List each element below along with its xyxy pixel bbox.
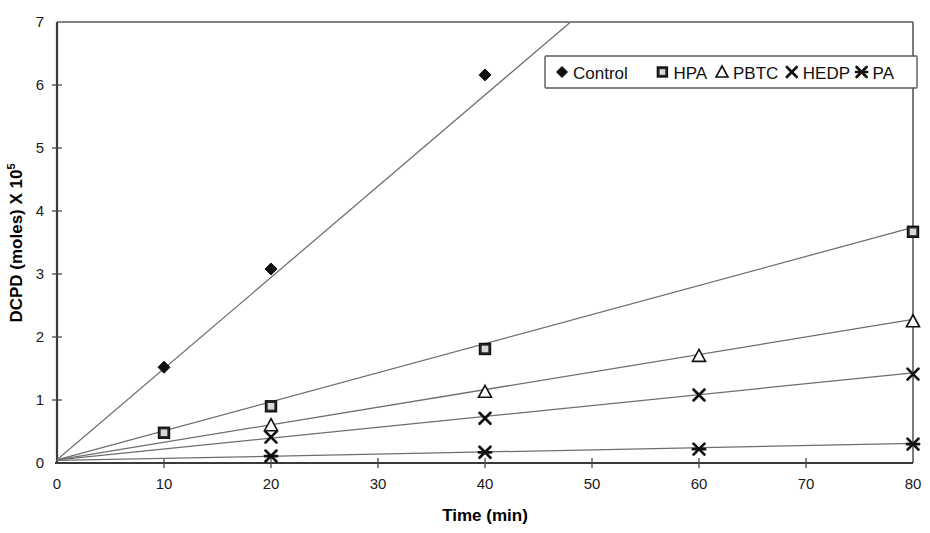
datapoint-hpa (266, 401, 277, 412)
x-tick-label: 50 (584, 475, 601, 492)
svg-text:DCPD (moles) X 105: DCPD (moles) X 105 (5, 163, 26, 322)
x-axis-title: Time (min) (442, 506, 528, 525)
y-tick-label: 2 (36, 328, 44, 345)
x-tick-label: 0 (53, 475, 61, 492)
y-tick-label: 4 (36, 202, 44, 219)
datapoint-hpa (480, 343, 491, 354)
x-tick-label: 40 (477, 475, 494, 492)
y-tick-label: 6 (36, 76, 44, 93)
y-tick-label: 1 (36, 391, 44, 408)
legend-label-control: Control (573, 64, 628, 83)
datapoint-control (479, 69, 491, 81)
series-markers (158, 69, 920, 462)
chart-container: 01234567 01020304050607080 DCPD (moles) … (0, 0, 930, 533)
datapoint-pa (693, 444, 705, 455)
y-tick-label: 7 (36, 13, 44, 30)
y-tick-label: 0 (36, 454, 44, 471)
legend-label-hedp: HEDP (803, 64, 850, 83)
x-tick-label: 30 (370, 475, 387, 492)
datapoint-pa (479, 447, 491, 458)
chart-legend: ControlHPAPBTCHEDPPA (545, 56, 917, 88)
datapoint-hpa (159, 427, 170, 438)
datapoint-pbtc (265, 419, 278, 431)
y-axis-title-text: DCPD (moles) X 10 (7, 170, 26, 323)
trendline-control (57, 22, 571, 460)
dcpd-vs-time-line-chart: 01234567 01020304050607080 DCPD (moles) … (0, 0, 930, 533)
x-tick-label: 80 (905, 475, 922, 492)
y-axis-title-exponent: 5 (5, 163, 17, 169)
y-axis-title: DCPD (moles) X 105 (5, 163, 26, 322)
legend-label-pa: PA (873, 64, 895, 83)
datapoint-pbtc (479, 385, 492, 397)
x-tick-label: 70 (798, 475, 815, 492)
x-tick-label: 20 (263, 475, 280, 492)
legend-marker-hpa (657, 67, 667, 77)
datapoint-pbtc (907, 315, 920, 327)
y-tick-label: 3 (36, 265, 44, 282)
y-tick-label: 5 (36, 139, 44, 156)
x-tick-label: 60 (691, 475, 708, 492)
x-tick-label: 10 (156, 475, 173, 492)
legend-label-hpa: HPA (673, 64, 707, 83)
legend-label-pbtc: PBTC (733, 64, 778, 83)
datapoint-hpa (908, 226, 919, 237)
datapoint-hedp (480, 413, 491, 424)
